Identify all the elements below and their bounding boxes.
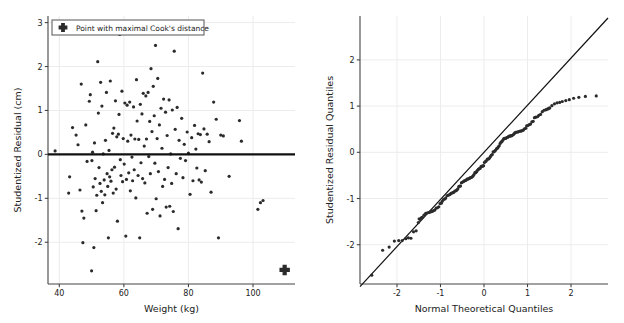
data-point [166, 134, 169, 137]
data-point [119, 158, 122, 161]
data-point [160, 147, 163, 150]
data-point [100, 190, 103, 193]
data-point [146, 212, 149, 215]
data-point [138, 236, 141, 239]
data-point [420, 216, 423, 219]
data-point [107, 236, 110, 239]
data-point [572, 97, 575, 100]
data-point [146, 91, 149, 94]
data-point [117, 133, 120, 136]
data-point [140, 112, 143, 115]
data-point [256, 208, 259, 211]
data-point [200, 180, 203, 183]
data-point [90, 269, 93, 272]
x-tick-label: 1 [525, 289, 530, 298]
data-point [129, 189, 132, 192]
data-point [97, 166, 100, 169]
data-point [67, 191, 70, 194]
data-point [130, 155, 133, 158]
y-tick-label: 1 [37, 106, 42, 115]
data-point [89, 93, 92, 96]
x-tick-label: 0 [481, 289, 486, 298]
tick-labels-left: 406080100-2-10123 [35, 19, 261, 298]
data-point [109, 79, 112, 82]
data-point [119, 174, 122, 177]
data-point [401, 239, 404, 242]
data-point [71, 126, 74, 129]
data-point [202, 127, 205, 130]
data-point [144, 94, 147, 97]
data-point [124, 235, 127, 238]
data-point [180, 117, 183, 120]
data-point [199, 133, 202, 136]
data-point [437, 205, 440, 208]
data-point [134, 196, 137, 199]
y-tick-label: 2 [349, 56, 354, 65]
data-point [532, 120, 535, 123]
data-point [154, 44, 157, 47]
data-point [139, 103, 142, 106]
data-point [99, 81, 102, 84]
data-point [127, 171, 130, 174]
data-point [170, 182, 173, 185]
data-point [393, 239, 396, 242]
data-point [131, 179, 134, 182]
data-point [112, 126, 115, 129]
data-point [164, 111, 167, 114]
data-point [193, 124, 196, 127]
data-point [137, 138, 140, 141]
data-point [88, 100, 91, 103]
y-tick-label: 0 [349, 148, 354, 157]
data-point [113, 166, 116, 169]
data-point [85, 160, 88, 163]
x-tick-label: 40 [54, 289, 64, 298]
data-point [120, 90, 123, 93]
data-point [175, 172, 178, 175]
data-point [584, 95, 587, 98]
data-point [595, 94, 598, 97]
data-point [80, 209, 83, 212]
data-point [491, 153, 494, 156]
data-point [163, 178, 166, 181]
data-point [84, 123, 87, 126]
data-point [577, 96, 580, 99]
x-axis-label-right: Normal Theoretical Quantiles [415, 303, 554, 314]
normal-qq-plot-svg: -2-1012-2-1012 Normal Theoretical Quanti… [312, 0, 624, 323]
x-tick-label: 80 [183, 289, 193, 298]
data-point [106, 185, 109, 188]
gridlines-right [360, 16, 608, 284]
data-point [201, 72, 204, 75]
data-point [388, 245, 391, 248]
y-tick-label: -1 [347, 195, 355, 204]
data-point [112, 191, 115, 194]
data-point [459, 184, 462, 187]
data-point [116, 220, 119, 223]
data-point [100, 104, 103, 107]
data-point [122, 137, 125, 140]
data-point [171, 108, 174, 111]
data-point [397, 239, 400, 242]
data-point [136, 119, 139, 122]
residual-vs-weight-svg: 406080100-2-10123 Point with maximal Coo… [0, 0, 312, 323]
data-point [179, 157, 182, 160]
data-point [78, 188, 81, 191]
legend-left[interactable]: Point with maximal Cook's distance [52, 20, 209, 35]
y-tick-label: -1 [35, 194, 43, 203]
data-point [228, 175, 231, 178]
data-point [109, 180, 112, 183]
data-point [111, 132, 114, 135]
data-point [129, 133, 132, 136]
gridlines-left [48, 16, 295, 284]
data-point [194, 148, 197, 151]
data-point [126, 140, 129, 143]
data-point [172, 210, 175, 213]
data-point [155, 197, 158, 200]
data-point [125, 178, 128, 181]
data-point [93, 141, 96, 144]
data-point [158, 123, 161, 126]
data-point [195, 166, 198, 169]
y-tick-label: 2 [37, 63, 42, 72]
data-point [97, 111, 100, 114]
data-point [191, 179, 194, 182]
data-point [148, 120, 151, 123]
